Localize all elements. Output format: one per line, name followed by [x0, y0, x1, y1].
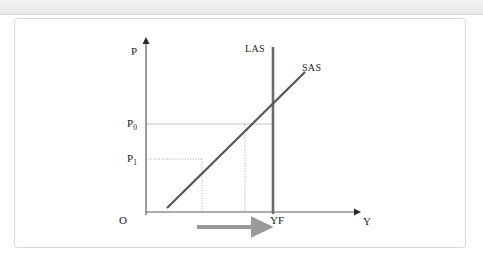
diagram-svg [15, 19, 467, 249]
price-level-p1-label: P1 [127, 152, 137, 167]
top-toolbar-strip [0, 0, 483, 15]
x-axis-label: Y [363, 215, 371, 227]
y-axis-label: P [131, 45, 137, 57]
sas-curve[interactable] [167, 72, 305, 208]
price-level-p0-label: P0 [127, 117, 137, 132]
origin-label: O [119, 214, 127, 226]
content-panel: P Y O LAS SAS YF P0 P1 [14, 18, 466, 248]
as-diagram: P Y O LAS SAS YF P0 P1 [15, 19, 467, 249]
sas-curve-label: SAS [302, 62, 321, 73]
las-curve-label: LAS [245, 43, 265, 54]
p1-subscript: 1 [133, 158, 137, 167]
full-employment-output-label: YF [270, 214, 284, 226]
p0-subscript: 0 [133, 123, 137, 132]
